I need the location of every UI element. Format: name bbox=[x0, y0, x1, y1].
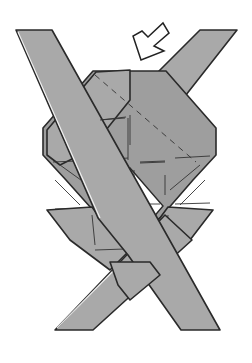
origami-diagram bbox=[0, 0, 252, 363]
fold-arrow-icon bbox=[133, 23, 169, 60]
